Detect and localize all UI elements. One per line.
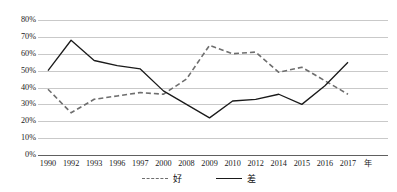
y-axis-tick-70: 70% bbox=[2, 32, 36, 41]
legend-item-cha: 差 bbox=[216, 172, 256, 185]
x-axis-tick-2017: 2017 bbox=[336, 159, 360, 169]
y-axis-tick-30: 30% bbox=[2, 99, 36, 108]
x-axis-tick-1990: 1990 bbox=[36, 159, 60, 169]
x-axis-tick-2010: 2010 bbox=[221, 159, 245, 169]
legend-label-hao: 好 bbox=[173, 172, 182, 185]
x-axis-tick-2008: 2008 bbox=[174, 159, 198, 169]
x-axis-tick-1997: 1997 bbox=[128, 159, 152, 169]
legend-swatch-solid-icon bbox=[216, 178, 242, 179]
x-axis-tick-2000: 2000 bbox=[151, 159, 175, 169]
x-axis-unit-label: 年 bbox=[364, 159, 372, 169]
chart-legend: 好 差 bbox=[0, 172, 397, 185]
x-axis-tick-2015: 2015 bbox=[290, 159, 314, 169]
legend-item-hao: 好 bbox=[142, 172, 182, 185]
y-axis-tick-0: 0% bbox=[2, 150, 36, 159]
legend-swatch-dashed-icon bbox=[142, 178, 168, 179]
x-axis-tick-2014: 2014 bbox=[267, 159, 291, 169]
plot-area bbox=[38, 20, 388, 155]
legend-label-cha: 差 bbox=[247, 172, 256, 185]
y-axis-tick-60: 60% bbox=[2, 49, 36, 58]
series-line-差 bbox=[48, 40, 348, 118]
x-axis-tick-1993: 1993 bbox=[82, 159, 106, 169]
y-axis-tick-40: 40% bbox=[2, 83, 36, 92]
y-axis-tick-50: 50% bbox=[2, 66, 36, 75]
y-axis-tick-80: 80% bbox=[2, 15, 36, 24]
y-axis-tick-labels: 80%70%60%50%40%30%20%10%0% bbox=[0, 0, 36, 192]
x-axis-tick-2016: 2016 bbox=[313, 159, 337, 169]
y-axis-tick-10: 10% bbox=[2, 133, 36, 142]
series-lines bbox=[38, 20, 388, 155]
x-axis-tick-2009: 2009 bbox=[198, 159, 222, 169]
line-chart: 80%70%60%50%40%30%20%10%0% 1990199219931… bbox=[0, 0, 397, 192]
x-axis-tick-1996: 1996 bbox=[105, 159, 129, 169]
x-axis-line bbox=[38, 155, 388, 156]
x-axis-tick-1992: 1992 bbox=[59, 159, 83, 169]
y-axis-tick-20: 20% bbox=[2, 116, 36, 125]
x-axis-tick-2012: 2012 bbox=[244, 159, 268, 169]
